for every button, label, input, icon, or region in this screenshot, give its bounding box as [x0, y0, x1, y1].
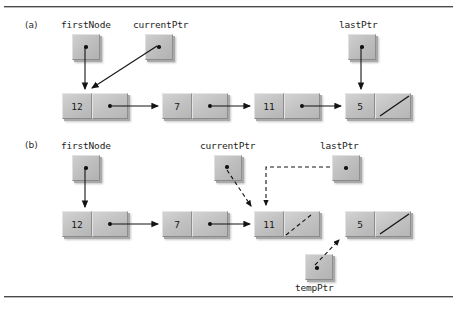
node-b-3-link-null [375, 211, 411, 237]
node-b-1: 7 [162, 211, 228, 237]
node-a-0-value: 12 [62, 93, 92, 119]
ptrbox-currentptr-a [145, 34, 173, 60]
node-b-0-link [92, 211, 128, 237]
node-a-2-value: 11 [254, 93, 284, 119]
ptrbox-lastptr-b [332, 155, 360, 181]
label-currentptr-a: currentPtr [133, 19, 188, 30]
node-b-3-value: 5 [345, 211, 375, 237]
node-b-1-value: 7 [162, 211, 192, 237]
node-a-2: 11 [254, 93, 320, 119]
label-firstnode-a: firstNode [61, 19, 111, 30]
node-a-1-value: 7 [162, 93, 192, 119]
pointer-dot [344, 166, 348, 170]
node-b-0: 12 [62, 211, 128, 237]
node-a-2-link [284, 93, 320, 119]
node-b-2-value: 11 [254, 211, 284, 237]
node-b-3: 5 [345, 211, 411, 237]
node-a-3: 5 [345, 93, 411, 119]
panel-label-b: (b) [25, 140, 38, 150]
pointer-dot [225, 165, 229, 169]
ptrbox-firstnode-a [72, 34, 100, 60]
panel-label-a: (a) [25, 20, 38, 30]
node-b-0-value: 12 [62, 211, 92, 237]
node-a-0: 12 [62, 93, 128, 119]
pointer-dot [157, 45, 161, 49]
ptrbox-firstnode-b [72, 155, 100, 181]
link-dot [208, 222, 212, 226]
node-b-1-link [192, 211, 228, 237]
ptrbox-lastptr-a [348, 34, 376, 60]
node-a-1-link [192, 93, 228, 119]
link-dot [108, 222, 112, 226]
label-tempptr-b: tempPtr [295, 282, 334, 293]
node-b-2: 11 [254, 211, 320, 237]
node-a-1: 7 [162, 93, 228, 119]
node-b-2-link-dashed [284, 211, 320, 237]
arrow-lastptr-b [266, 167, 330, 205]
pointer-dot [360, 45, 364, 49]
figure-canvas: (a) firstNode currentPtr lastPtr 12 7 11… [0, 0, 457, 309]
node-a-3-link-null [375, 93, 411, 119]
node-a-0-link [92, 93, 128, 119]
node-a-3-value: 5 [345, 93, 375, 119]
pointer-dot [84, 45, 88, 49]
ptrbox-currentptr-b [214, 155, 242, 181]
ptrbox-tempptr-b [305, 254, 333, 280]
label-firstnode-b: firstNode [61, 140, 111, 151]
link-dot [208, 104, 212, 108]
pointer-dot [84, 166, 88, 170]
link-dot [300, 104, 304, 108]
label-lastptr-a: lastPtr [339, 19, 378, 30]
label-currentptr-b: currentPtr [200, 140, 255, 151]
pointer-dot [315, 266, 319, 270]
label-lastptr-b: lastPtr [320, 140, 359, 151]
bottom-rule [4, 296, 453, 298]
top-rule [4, 6, 453, 8]
link-dot [108, 104, 112, 108]
